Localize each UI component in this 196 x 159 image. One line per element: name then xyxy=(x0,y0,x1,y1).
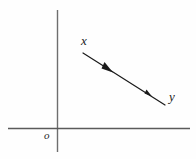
label-origin: o xyxy=(44,129,50,141)
figure-container: x y o xyxy=(0,0,196,159)
label-x: x xyxy=(80,33,87,48)
coordinate-axes-diagram: x y o xyxy=(0,0,196,159)
figure-background xyxy=(0,0,196,159)
label-y: y xyxy=(167,89,175,104)
